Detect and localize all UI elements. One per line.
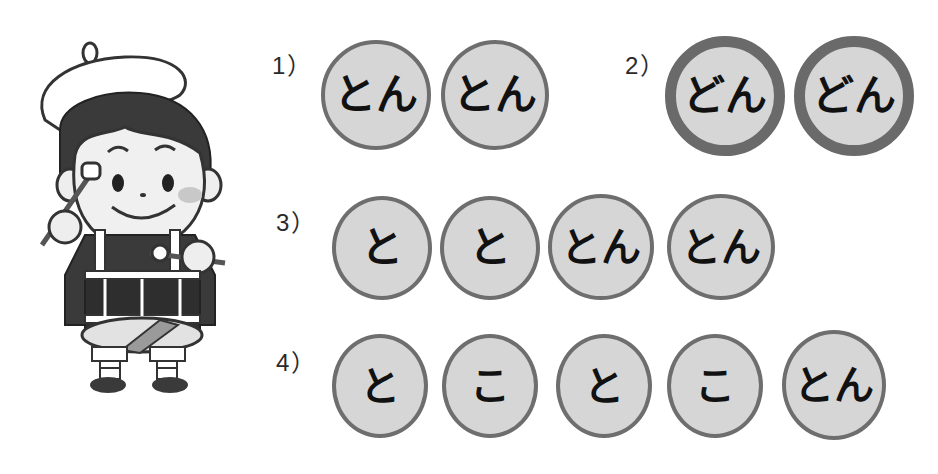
beat-circle: とん bbox=[548, 194, 654, 300]
beat-text: どん bbox=[812, 75, 896, 117]
beat-text: こ bbox=[695, 366, 735, 406]
beat-text: とん bbox=[794, 365, 874, 405]
beat-circle: とん bbox=[667, 194, 775, 300]
exercise-4-label: 4） bbox=[276, 343, 317, 378]
drum-icon bbox=[82, 271, 202, 353]
beat-text: とん bbox=[334, 74, 418, 116]
drummer-boy-illustration bbox=[30, 35, 240, 395]
beat-circle-strong: どん bbox=[794, 36, 914, 156]
beat-circle: とん bbox=[782, 330, 886, 440]
beat-circle: こ bbox=[442, 334, 538, 438]
beat-text: と bbox=[360, 366, 400, 406]
beat-circle: と bbox=[332, 334, 428, 438]
beat-text: とん bbox=[681, 227, 761, 267]
beat-text: と bbox=[469, 227, 511, 269]
beat-circle: とん bbox=[321, 40, 431, 150]
beat-circle: と bbox=[440, 196, 540, 300]
beat-text: こ bbox=[470, 366, 510, 406]
beat-text: とん bbox=[453, 74, 537, 116]
beat-text: とん bbox=[561, 227, 641, 267]
beat-circle: と bbox=[556, 334, 652, 438]
beat-circle-strong: どん bbox=[665, 36, 785, 156]
exercise-3-label: 3） bbox=[276, 203, 317, 238]
beat-circle: こ bbox=[667, 334, 763, 438]
beat-circle: と bbox=[332, 196, 432, 300]
exercise-2-label: 2） bbox=[625, 46, 666, 81]
beat-circle: とん bbox=[441, 40, 549, 150]
beat-text: と bbox=[361, 227, 403, 269]
beat-text: どん bbox=[683, 75, 767, 117]
exercise-1-label: 1） bbox=[272, 46, 313, 81]
beat-text: と bbox=[584, 366, 624, 406]
